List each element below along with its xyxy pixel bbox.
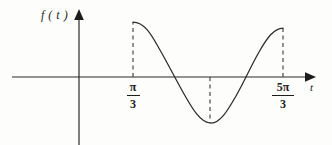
x-tick-pi-over-3-fraction-bar [127,95,140,96]
x-axis-label: t [310,82,313,93]
x-tick-five-pi-over-3-fraction-bar [272,95,294,96]
x-tick-pi-over-3-denominator: 3 [123,97,143,111]
x-tick-five-pi-over-3-denominator: 3 [268,97,298,111]
function-curve [133,22,283,123]
y-axis-arrowhead [74,9,84,20]
x-tick-five-pi-over-3-numerator: 5π [268,81,298,95]
x-tick-pi-over-3-numerator: π [123,81,143,95]
x-tick-label-five-pi-over-3: 5π 3 [268,81,298,110]
x-tick-label-pi-over-3: π 3 [123,81,143,110]
sinusoid-graph-figure: f ( t ) t π 3 5π 3 [0,0,332,145]
y-axis-label: f ( t ) [41,9,68,21]
